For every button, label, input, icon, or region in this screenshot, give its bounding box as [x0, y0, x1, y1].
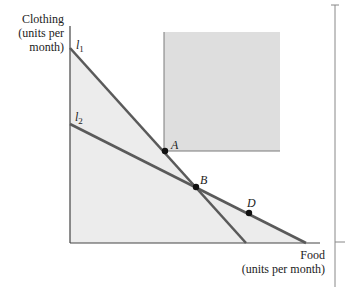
point-label-b: B	[200, 173, 207, 187]
line-label-l1: l1	[76, 38, 84, 56]
point-a	[162, 148, 168, 154]
preferred-region	[164, 32, 280, 151]
line-label-l2: l2	[75, 110, 83, 128]
x-axis-label-line2: (units per month)	[185, 262, 325, 276]
y-axis-label-line3: month)	[0, 40, 64, 54]
y-axis-label: Clothing (units per month)	[0, 12, 64, 54]
point-d	[246, 210, 252, 216]
point-label-a: A	[171, 138, 178, 152]
y-axis-label-line1: Clothing	[0, 12, 64, 26]
x-axis-label-line1: Food	[185, 248, 325, 262]
y-axis-label-line2: (units per	[0, 26, 64, 40]
x-axis-label: Food (units per month)	[185, 248, 325, 276]
point-b	[193, 184, 199, 190]
point-label-d: D	[247, 196, 256, 210]
